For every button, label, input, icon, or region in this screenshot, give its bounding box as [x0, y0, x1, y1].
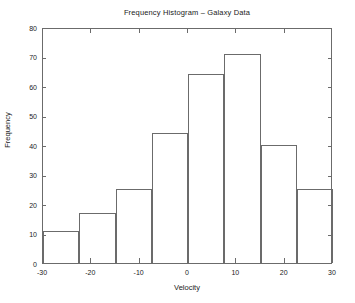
x-tick-label: 10 [215, 269, 255, 276]
x-tick-mark [284, 258, 285, 264]
y-tick-mark [42, 58, 46, 59]
x-tick-mark [187, 258, 188, 264]
histogram-bar [188, 74, 224, 263]
histogram-bar [152, 133, 188, 263]
y-tick-label: 10 [9, 231, 37, 238]
x-tick-label: 0 [167, 269, 207, 276]
x-tick-mark-top [90, 28, 91, 33]
y-tick-label: 60 [9, 84, 37, 91]
y-tick-label: 0 [9, 261, 37, 268]
x-tick-label: -10 [119, 269, 159, 276]
y-tick-label: 40 [9, 143, 37, 150]
x-tick-mark-top [187, 28, 188, 33]
y-tick-mark-right [328, 235, 332, 236]
histogram-bar [224, 54, 260, 263]
y-tick-mark [42, 87, 46, 88]
y-axis-label: Frequency [4, 100, 12, 160]
x-axis-label: Velocity [42, 284, 332, 292]
y-tick-mark-right [328, 146, 332, 147]
histogram-bar [261, 145, 297, 263]
x-tick-label: 30 [312, 269, 352, 276]
x-tick-mark-top [235, 28, 236, 33]
y-tick-mark-right [328, 176, 332, 177]
y-tick-label: 80 [9, 25, 37, 32]
y-tick-mark [42, 235, 46, 236]
histogram-bar [116, 189, 152, 263]
x-tick-mark [235, 258, 236, 264]
y-tick-mark [42, 205, 46, 206]
x-tick-mark [139, 258, 140, 264]
chart-title: Frequency Histogram – Galaxy Data [42, 8, 332, 18]
y-tick-mark-right [328, 117, 332, 118]
y-tick-mark-right [328, 58, 332, 59]
histogram-bars [43, 29, 331, 263]
y-tick-mark [42, 146, 46, 147]
x-tick-label: -20 [70, 269, 110, 276]
x-tick-mark-top [284, 28, 285, 33]
y-tick-mark-right [328, 205, 332, 206]
histogram-figure: Frequency Histogram – Galaxy Data Freque… [0, 0, 355, 303]
y-tick-label: 20 [9, 202, 37, 209]
histogram-bar [297, 189, 333, 263]
y-tick-mark [42, 176, 46, 177]
y-tick-mark [42, 117, 46, 118]
x-tick-mark [90, 258, 91, 264]
y-tick-label: 30 [9, 172, 37, 179]
x-tick-mark-top [139, 28, 140, 33]
x-tick-label: 20 [264, 269, 304, 276]
plot-area [42, 28, 332, 264]
histogram-bar [79, 213, 115, 263]
y-tick-mark-right [328, 87, 332, 88]
x-tick-label: -30 [22, 269, 62, 276]
y-tick-label: 50 [9, 113, 37, 120]
y-tick-label: 70 [9, 54, 37, 61]
histogram-bar [43, 231, 79, 263]
